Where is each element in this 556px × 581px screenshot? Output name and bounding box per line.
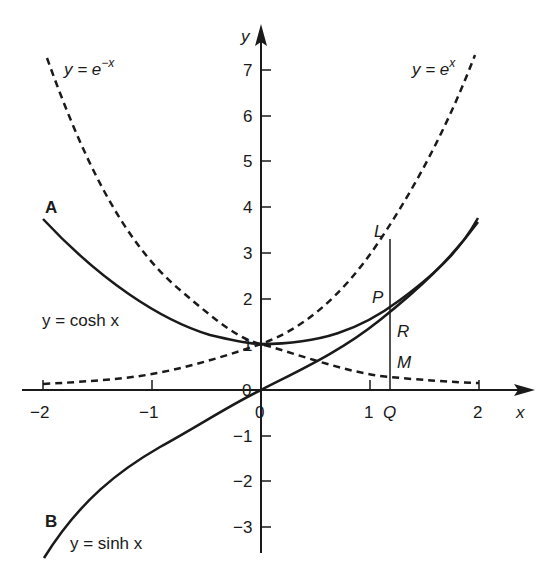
label-cosh: y = cosh x (42, 311, 120, 330)
point-label-P: P (372, 288, 384, 307)
curve-exp-neg-x (47, 58, 479, 383)
label-exp-neg-x: y = e−x (63, 56, 115, 79)
label-exp-x: y = ex (411, 56, 456, 79)
y-tick-label: 7 (243, 61, 252, 80)
point-label-L: L (374, 222, 383, 241)
y-tick-label: 6 (243, 107, 252, 126)
y-tick-label: 4 (243, 198, 252, 217)
point-label-M: M (397, 353, 412, 372)
y-axis-label: y (240, 27, 251, 46)
y-tick-label: −2 (233, 472, 252, 491)
y-tick-label: 3 (243, 244, 252, 263)
x-tick-label: 0 (255, 403, 264, 422)
y-ticks (261, 70, 271, 527)
curve-exp-x (43, 55, 475, 384)
label-A: A (45, 198, 57, 217)
y-tick-label: −3 (233, 518, 252, 537)
x-tick-label: 1 (364, 403, 373, 422)
y-tick-label: −1 (233, 427, 252, 446)
x-tick-label: 2 (473, 403, 482, 422)
label-B: B (45, 512, 57, 531)
hyperbolic-functions-chart: −2 −1 0 1 2 0 1 2 3 4 5 6 7 −1 −2 −3 x y… (0, 0, 556, 581)
y-tick-label: 2 (243, 290, 252, 309)
point-label-Q: Q (383, 403, 396, 422)
x-tick-label: −1 (139, 403, 158, 422)
x-tick-label: −2 (30, 403, 49, 422)
x-axis-label: x (515, 403, 525, 422)
y-tick-label: 5 (243, 152, 252, 171)
point-label-R: R (397, 322, 409, 341)
label-sinh: y = sinh x (70, 534, 143, 553)
